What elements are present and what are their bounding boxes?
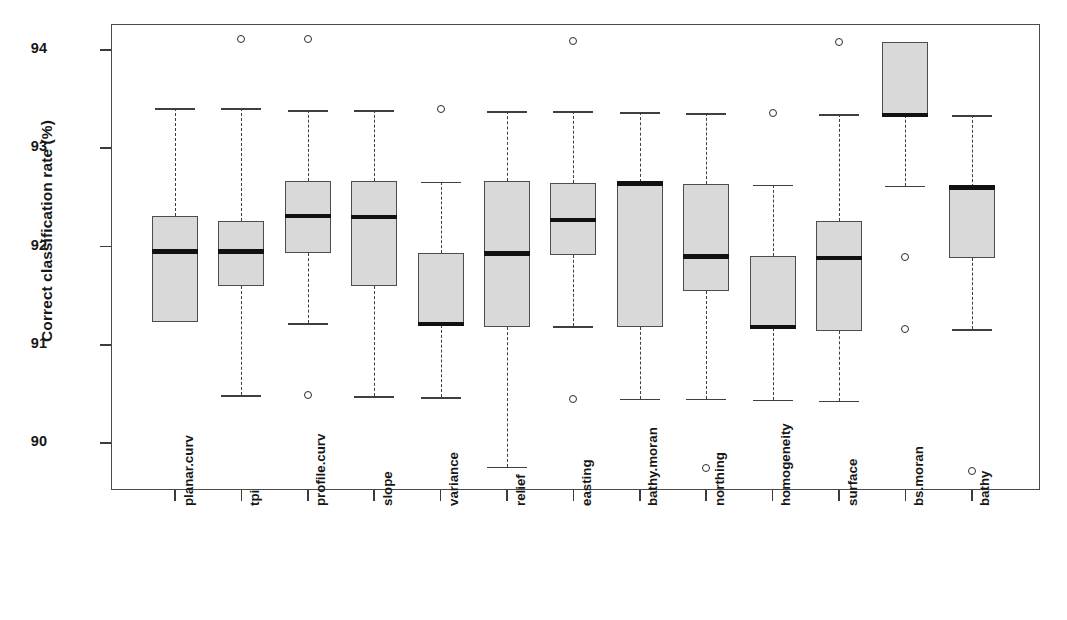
whisker-cap-upper: [221, 108, 261, 110]
outlier-point: [304, 35, 312, 43]
y-tick-label: 94: [7, 40, 47, 56]
whisker-lower: [374, 286, 375, 396]
whisker-cap-lower: [553, 326, 593, 328]
whisker-cap-lower: [354, 396, 394, 398]
outlier-point: [237, 35, 245, 43]
x-tick-mark: [440, 490, 442, 501]
whisker-lower: [241, 286, 242, 395]
whisker-cap-upper: [354, 110, 394, 112]
median-line: [484, 251, 530, 255]
y-tick-mark: [100, 344, 111, 346]
boxplot-figure: Correct classification rate (%) 90919293…: [0, 0, 1067, 620]
y-tick-label: 90: [7, 433, 47, 449]
whisker-upper: [640, 112, 641, 182]
box-body: [882, 42, 928, 115]
y-tick-mark: [100, 246, 111, 248]
y-tick-mark: [100, 49, 111, 51]
whisker-cap-lower: [753, 400, 793, 402]
x-tick-mark: [772, 490, 774, 501]
whisker-cap-lower: [421, 397, 461, 399]
whisker-cap-upper: [155, 108, 195, 110]
whisker-cap-upper: [553, 111, 593, 113]
median-line: [418, 322, 464, 326]
y-tick-mark: [100, 147, 111, 149]
whisker-cap-upper: [487, 111, 527, 113]
outlier-point: [304, 391, 312, 399]
x-tick-mark: [307, 490, 309, 501]
box-body: [750, 256, 796, 328]
whisker-cap-lower: [487, 467, 527, 469]
plot-area: [111, 24, 1040, 490]
y-tick-label: 91: [7, 335, 47, 351]
whisker-lower: [308, 253, 309, 323]
whisker-cap-upper: [620, 112, 660, 114]
outlier-point: [835, 38, 843, 46]
whisker-cap-lower: [221, 395, 261, 397]
x-tick-label: tpi: [247, 490, 262, 506]
outlier-point: [968, 467, 976, 475]
whisker-lower: [839, 331, 840, 401]
whisker-cap-upper: [753, 185, 793, 187]
outlier-point: [901, 325, 909, 333]
whisker-upper: [507, 111, 508, 181]
box-body: [816, 221, 862, 331]
x-tick-mark: [971, 490, 973, 501]
x-tick-mark: [905, 490, 907, 501]
y-tick-label: 93: [7, 138, 47, 154]
whisker-cap-upper: [288, 110, 328, 112]
whisker-cap-upper: [421, 182, 461, 184]
whisker-cap-upper: [686, 113, 726, 115]
whisker-upper: [573, 111, 574, 183]
whisker-cap-lower: [686, 399, 726, 401]
median-line: [550, 218, 596, 222]
median-line: [816, 256, 862, 260]
whisker-lower: [573, 255, 574, 326]
x-tick-mark: [506, 490, 508, 501]
outlier-point: [901, 253, 909, 261]
median-line: [683, 254, 729, 258]
outlier-point: [569, 37, 577, 45]
outlier-point: [569, 395, 577, 403]
x-tick-mark: [838, 490, 840, 501]
whisker-lower: [706, 291, 707, 399]
box-body: [351, 181, 397, 286]
whisker-cap-upper: [952, 115, 992, 117]
y-tick-label: 92: [7, 237, 47, 253]
whisker-cap-lower: [288, 323, 328, 325]
whisker-lower: [905, 115, 906, 186]
whisker-cap-lower: [819, 401, 859, 403]
y-tick-mark: [100, 442, 111, 444]
x-tick-mark: [174, 490, 176, 501]
whisker-upper: [839, 114, 840, 221]
box-body: [949, 187, 995, 259]
x-tick-mark: [705, 490, 707, 501]
median-line: [152, 249, 198, 253]
median-line: [882, 113, 928, 117]
whisker-cap-lower: [952, 329, 992, 331]
box-body: [683, 184, 729, 291]
box-body: [418, 253, 464, 325]
whisker-upper: [374, 110, 375, 181]
whisker-lower: [972, 258, 973, 329]
whisker-lower: [441, 325, 442, 397]
median-line: [285, 214, 331, 218]
whisker-upper: [972, 115, 973, 187]
whisker-upper: [241, 108, 242, 221]
box-body: [617, 182, 663, 327]
median-line: [949, 185, 995, 189]
outlier-point: [437, 105, 445, 113]
median-line: [218, 249, 264, 253]
whisker-upper: [308, 110, 309, 181]
outlier-point: [702, 464, 710, 472]
x-tick-mark: [639, 490, 641, 501]
median-line: [617, 181, 663, 185]
whisker-upper: [773, 185, 774, 257]
whisker-cap-lower: [620, 399, 660, 401]
box-body: [152, 216, 198, 322]
whisker-cap-lower: [885, 186, 925, 188]
x-tick-mark: [373, 490, 375, 501]
whisker-lower: [640, 327, 641, 399]
x-tick-mark: [241, 490, 243, 501]
whisker-upper: [175, 108, 176, 216]
whisker-lower: [773, 328, 774, 400]
